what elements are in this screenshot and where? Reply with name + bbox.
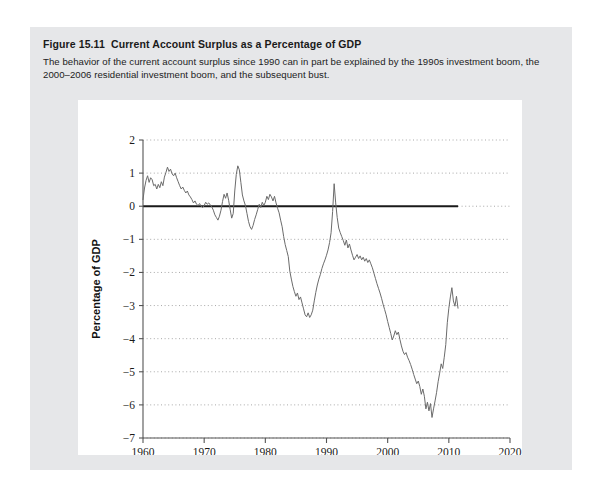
y-tick-label: −7 xyxy=(123,432,135,444)
figure-page: Figure 15.11 Current Account Surplus as … xyxy=(0,0,599,497)
y-axis-ticks: 210−1−2−3−4−5−6−7 xyxy=(123,134,143,444)
figure-panel: Figure 15.11 Current Account Surplus as … xyxy=(30,27,572,470)
x-tick-label: 1980 xyxy=(254,446,277,455)
grid-lines xyxy=(143,140,510,438)
caption-title-line: Figure 15.11 Current Account Surplus as … xyxy=(43,37,555,51)
y-tick-label: −4 xyxy=(123,333,135,345)
axis-lines xyxy=(143,140,510,438)
figure-title-text: Current Account Surplus as a Percentage … xyxy=(111,38,361,50)
y-tick-label: 1 xyxy=(129,167,135,179)
x-tick-label: 1970 xyxy=(193,446,216,455)
caption-description: The behavior of the current account surp… xyxy=(43,55,555,81)
y-tick-label: −2 xyxy=(123,266,135,278)
series-polyline xyxy=(143,166,458,418)
x-tick-label: 2000 xyxy=(376,446,399,455)
y-tick-label: −1 xyxy=(123,233,135,245)
x-tick-label: 2010 xyxy=(437,446,460,455)
y-tick-label: 0 xyxy=(129,200,135,212)
y-tick-label: 2 xyxy=(129,134,135,146)
current-account-surplus-chart: 210−1−2−3−4−5−6−7 1960197019801990200020… xyxy=(78,100,522,455)
figure-caption: Figure 15.11 Current Account Surplus as … xyxy=(43,37,555,81)
x-tick-label: 2020 xyxy=(499,446,522,455)
x-axis-ticks: 1960197019801990200020102020 xyxy=(132,438,522,455)
y-tick-label: −5 xyxy=(123,366,135,378)
y-tick-label: −3 xyxy=(123,300,135,312)
y-axis-title: Percentage of GDP xyxy=(90,239,102,339)
figure-number: Figure 15.11 xyxy=(43,38,105,50)
x-tick-label: 1960 xyxy=(132,446,155,455)
data-series-line xyxy=(143,166,458,418)
y-tick-label: −6 xyxy=(123,399,135,411)
plot-card: 210−1−2−3−4−5−6−7 1960197019801990200020… xyxy=(78,100,522,455)
x-tick-label: 1990 xyxy=(315,446,338,455)
